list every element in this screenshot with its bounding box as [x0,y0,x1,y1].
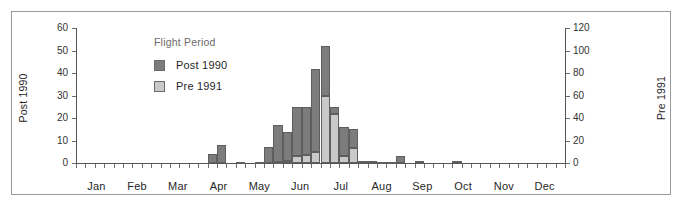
x-axis-tickmark [245,164,246,168]
legend-title: Flight Period [154,36,227,48]
bar-pre-1991 [283,161,292,163]
bar-pre-1991 [349,148,358,163]
x-axis-month-label: Apr [199,180,239,192]
x-axis-month-label: Aug [362,180,402,192]
left-axis-tickmark [72,51,76,52]
bar-pre-1991 [321,96,330,164]
bar-post-1990 [358,161,367,163]
legend-item-post-1990: Post 1990 [154,59,227,71]
bar-pre-1991 [273,162,282,164]
x-axis-tickmark [499,164,500,168]
bar-pre-1991 [311,152,320,163]
x-axis-tickmark [405,164,406,168]
legend-swatch-post-1990 [154,60,165,71]
right-axis-title: Pre 1991 [655,68,667,128]
right-axis-tickmark [566,118,570,119]
right-axis-tickmark [566,163,570,164]
x-axis-tickmark [132,164,133,168]
x-axis-tickmark [292,164,293,168]
x-axis-tickmark [565,164,566,168]
bar-post-1990 [236,162,245,164]
x-axis-tickmark [104,164,105,168]
x-axis-tickmark [339,164,340,168]
x-axis-month-label: Dec [525,180,565,192]
bar-post-1990 [208,154,217,163]
bar-post-1990 [415,161,424,163]
x-axis-tickmark [123,164,124,168]
x-axis-tickmark [433,164,434,168]
x-axis-month-label: Oct [443,180,483,192]
x-axis-tickmark [208,164,209,168]
right-axis-tick-label: 20 [573,135,599,146]
x-axis-tickmark [189,164,190,168]
bar-post-1990 [377,162,386,164]
bar-post-1990 [339,127,348,156]
left-axis-tick-label: 20 [42,112,68,123]
x-axis-month-label: Jan [76,180,116,192]
x-axis-tickmark [76,164,77,168]
left-axis-tickmark [72,73,76,74]
right-axis-tickmark [566,51,570,52]
right-axis-tick-label: 0 [573,157,599,168]
bar-post-1990 [368,161,377,163]
x-axis-month-label: Jul [321,180,361,192]
x-axis-tickmark [198,164,199,168]
x-axis-tickmark [236,164,237,168]
bar-pre-1991 [292,156,301,163]
x-axis-month-label: Feb [117,180,157,192]
x-axis-tickmark [161,164,162,168]
right-axis-tick-label: 120 [573,22,599,33]
x-axis-tickmark [283,164,284,168]
right-axis-tick-label: 40 [573,112,599,123]
bar-post-1990 [292,107,301,157]
bar-pre-1991 [302,155,311,163]
left-axis-tick-label: 40 [42,67,68,78]
x-axis-tickmark [452,164,453,168]
bar-post-1990 [321,46,330,96]
x-axis-tickmark [518,164,519,168]
chart-frame: Post 1990 Pre 1991 Flight Period Post 19… [11,11,671,195]
x-axis-tickmark [415,164,416,168]
bar-post-1990 [311,69,320,152]
legend-label-pre-1991: Pre 1991 [176,80,222,92]
x-axis-tickmark [179,164,180,168]
x-axis-tickmark [226,164,227,168]
x-axis-tickmark [311,164,312,168]
left-axis-tickmark [72,28,76,29]
x-axis-month-label: Jun [280,180,320,192]
right-axis-tick-label: 100 [573,45,599,56]
bar-post-1990 [396,156,405,163]
bar-pre-1991 [339,156,348,163]
x-axis-tickmark [537,164,538,168]
left-axis-tick-label: 60 [42,22,68,33]
legend-item-pre-1991: Pre 1991 [154,80,227,92]
left-axis-tick-label: 0 [42,157,68,168]
chart-legend: Flight Period Post 1990 Pre 1991 [154,36,227,101]
x-axis-month-label: Sep [402,180,442,192]
bar-post-1990 [264,147,273,163]
x-axis-month-label: Nov [484,180,524,192]
x-axis-tickmark [556,164,557,168]
left-axis-tick-label: 30 [42,90,68,101]
bar-post-1990 [217,145,226,163]
bar-post-1990 [452,161,461,163]
x-axis-tickmark [255,164,256,168]
left-axis-spine [76,28,77,164]
x-axis-tickmark [462,164,463,168]
left-axis-title: Post 1990 [17,68,29,128]
bar-post-1990 [283,132,292,161]
bar-pre-1991 [330,114,339,164]
x-axis-tickmark [330,164,331,168]
bar-post-1990 [386,162,395,164]
legend-swatch-pre-1991 [154,81,165,92]
x-axis-tickmark [368,164,369,168]
x-axis-tickmark [85,164,86,168]
x-axis-tickmark [480,164,481,168]
right-axis-tickmark [566,141,570,142]
x-axis-tickmark [151,164,152,168]
x-axis-tickmark [302,164,303,168]
x-axis-month-label: Mar [158,180,198,192]
left-axis-tick-label: 10 [42,135,68,146]
legend-label-post-1990: Post 1990 [176,59,227,71]
x-axis-tickmark [264,164,265,168]
